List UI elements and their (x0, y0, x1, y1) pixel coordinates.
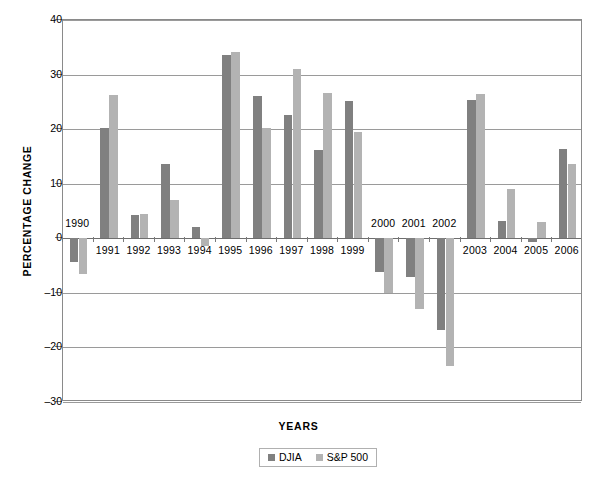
x-axis-label-1992: 1992 (126, 244, 150, 256)
x-axis-label-2005: 2005 (524, 244, 548, 256)
bar-djia-2006 (559, 149, 568, 238)
x-axis-label-2004: 2004 (493, 244, 517, 256)
bar-sp500-1993 (170, 200, 179, 239)
x-tick-2001 (398, 237, 399, 242)
bar-djia-1995 (222, 55, 231, 238)
legend-swatch-djia-icon (268, 454, 275, 461)
x-tick-2005 (521, 237, 522, 242)
x-tick-2003 (460, 237, 461, 242)
bar-sp500-2003 (476, 94, 485, 238)
x-axis-label-1991: 1991 (96, 244, 120, 256)
bar-djia-2003 (467, 100, 476, 238)
bar-sp500-2002 (446, 238, 455, 366)
bar-djia-2000 (375, 238, 384, 272)
x-tick-1992 (123, 237, 124, 242)
bar-sp500-1991 (109, 95, 118, 239)
gridline--30 (63, 402, 581, 403)
bar-djia-1998 (314, 150, 323, 238)
legend-swatch-sp500-icon (316, 454, 323, 461)
legend-item-sp500: S&P 500 (316, 451, 368, 463)
bar-sp500-1999 (354, 132, 363, 238)
legend-label-djia: DJIA (279, 451, 302, 463)
x-tick-1990 (62, 237, 63, 242)
bar-djia-1997 (284, 115, 293, 238)
x-tick-1991 (93, 237, 94, 242)
x-tick-1998 (307, 237, 308, 242)
x-axis-label-1997: 1997 (279, 244, 303, 256)
x-tick-1996 (246, 237, 247, 242)
y-tick-label-20: 20 (16, 122, 62, 134)
x-axis-title: YEARS (0, 420, 597, 432)
legend-item-djia: DJIA (268, 451, 302, 463)
x-tick-1995 (215, 237, 216, 242)
bar-djia-2001 (406, 238, 415, 277)
y-tick-label--30: –30 (16, 395, 62, 407)
x-tick-2002 (429, 237, 430, 242)
x-tick-2004 (490, 237, 491, 242)
bar-djia-1993 (161, 164, 170, 239)
y-tick-label--20: –20 (16, 340, 62, 352)
bar-djia-1996 (253, 96, 262, 238)
x-tick-1994 (184, 237, 185, 242)
bar-djia-1992 (131, 215, 140, 238)
bar-sp500-2000 (384, 238, 393, 293)
x-axis-label-1999: 1999 (340, 244, 364, 256)
bar-sp500-2001 (415, 238, 424, 309)
bars-layer (63, 20, 581, 400)
y-tick-label-40: 40 (16, 13, 62, 25)
bar-djia-2002 (437, 238, 446, 330)
x-axis-label-2001: 2001 (402, 217, 426, 229)
bar-sp500-1990 (79, 238, 88, 274)
y-tick-label-0: 0 (16, 231, 62, 243)
x-axis-label-1996: 1996 (249, 244, 273, 256)
legend-label-sp500: S&P 500 (327, 451, 368, 463)
bar-djia-1999 (345, 101, 354, 239)
bar-djia-1990 (70, 238, 79, 261)
plot-area (62, 19, 582, 401)
x-axis-label-2006: 2006 (555, 244, 579, 256)
bar-sp500-1997 (293, 69, 302, 238)
bar-sp500-1998 (323, 93, 332, 239)
x-axis-label-2002: 2002 (432, 217, 456, 229)
bar-djia-1994 (192, 227, 201, 238)
x-tick-2006 (551, 237, 552, 242)
y-axis-ticks: 403020100–10–20–30 (0, 0, 62, 488)
x-axis-label-2000: 2000 (371, 217, 395, 229)
x-axis-label-1993: 1993 (157, 244, 181, 256)
bar-sp500-2006 (568, 164, 577, 238)
x-axis-label-2003: 2003 (463, 244, 487, 256)
x-axis-label-1998: 1998 (310, 244, 334, 256)
x-axis-label-1990: 1990 (65, 217, 89, 229)
bar-sp500-1992 (140, 214, 149, 239)
chart-legend: DJIA S&P 500 (259, 448, 377, 467)
x-axis-label-1995: 1995 (218, 244, 242, 256)
bar-djia-1991 (100, 128, 109, 239)
x-tick-2000 (368, 237, 369, 242)
bar-sp500-2004 (507, 189, 516, 238)
y-tick-label-30: 30 (16, 68, 62, 80)
x-axis-label-1994: 1994 (188, 244, 212, 256)
x-tick-1999 (337, 237, 338, 242)
bar-sp500-2005 (537, 222, 546, 238)
y-tick-label-10: 10 (16, 177, 62, 189)
bar-sp500-1996 (262, 128, 271, 239)
bar-djia-2005 (528, 238, 537, 241)
bar-sp500-1995 (231, 52, 240, 238)
y-tick-label--10: –10 (16, 286, 62, 298)
x-tick-1993 (154, 237, 155, 242)
percentage-change-bar-chart: PERCENTAGE CHANGE 403020100–10–20–30 YEA… (0, 0, 597, 488)
x-tick-1997 (276, 237, 277, 242)
bar-djia-2004 (498, 221, 507, 238)
